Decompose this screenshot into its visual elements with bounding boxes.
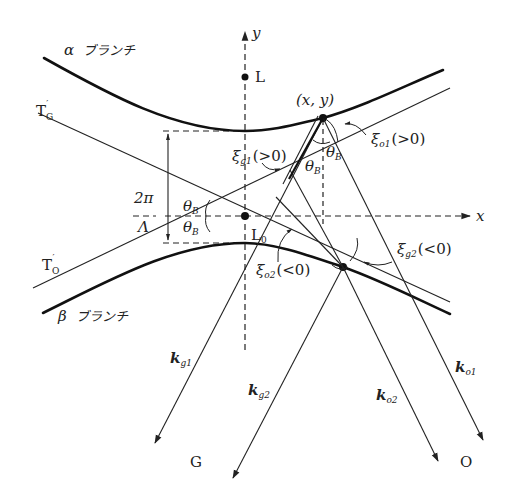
alpha-branch-label: α ブランチ <box>64 40 136 59</box>
xi-o2-pointer <box>278 229 292 262</box>
asymptote-TO <box>33 88 450 288</box>
gap-denominator: Λ <box>136 218 149 236</box>
theta-arc-upper <box>206 200 211 216</box>
point-L0 <box>241 212 249 220</box>
point-L <box>242 74 249 81</box>
xi-o1-label: ξo1(>0) <box>371 130 425 149</box>
xi-o1-bracket <box>327 120 338 142</box>
asymptotes <box>33 88 450 302</box>
asymptote-TO-label: TO′ <box>42 253 59 276</box>
ko1-label: ko1 <box>455 358 477 377</box>
point-O-label: O <box>460 453 472 471</box>
dispersion-surface-diagram: y x TG′ TO′ α ブランチ β ブランチ 2π Λ θB θB L L… <box>0 0 510 502</box>
point-G-label: G <box>190 453 202 471</box>
xi-g2-label: ξg2(<0) <box>397 240 452 259</box>
theta-B-lower: θB <box>183 218 199 237</box>
tie-point-label: (x, y) <box>296 91 334 109</box>
theta-B-tie-left: θB <box>305 157 321 176</box>
x-axis-label: x <box>476 207 485 225</box>
y-axis-label: y <box>251 24 261 42</box>
gap-numerator: 2π <box>133 189 155 207</box>
theta-B-upper: θB <box>183 197 199 216</box>
kg1-label: kg1 <box>170 349 192 368</box>
kg2-arrow <box>233 267 343 478</box>
xi-o2-label: ξo2(<0) <box>256 261 310 280</box>
asymptote-TG-label: TG′ <box>36 99 53 122</box>
kg1-arrow <box>155 118 323 443</box>
beta-branch-label: β ブランチ <box>57 306 129 325</box>
ko2-arrow <box>343 267 438 461</box>
ko1-arrow <box>323 118 483 440</box>
point-L-label: L <box>255 68 265 86</box>
theta-arc-lower <box>206 216 211 232</box>
kg2-label: kg2 <box>248 381 270 400</box>
xi-g1-label: ξg1(>0) <box>232 147 287 166</box>
ko2-label: ko2 <box>376 386 398 405</box>
theta-B-tie-right: θB <box>326 143 342 162</box>
